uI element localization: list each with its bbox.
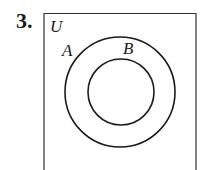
universe-label: U xyxy=(50,17,64,36)
set-b-circle xyxy=(88,59,154,125)
set-a-circle xyxy=(65,37,175,147)
venn-diagram: U A B xyxy=(0,0,203,170)
set-b-label: B xyxy=(123,39,134,58)
set-a-label: A xyxy=(61,41,73,60)
